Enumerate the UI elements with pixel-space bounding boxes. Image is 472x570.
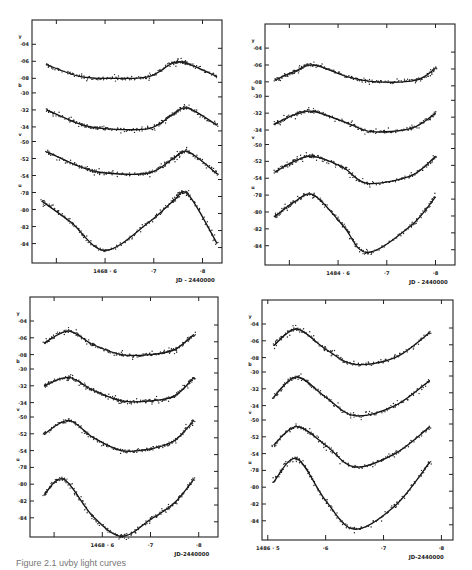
panel-bottom-left: 1468 · 6·7·8JD-2440000y·04·06·08b·30·32·… xyxy=(16,297,218,558)
x-tick-label: 1468 · 6 xyxy=(90,542,114,548)
x-tick-label: ·7 xyxy=(148,542,154,548)
y-tick-label: ·08 xyxy=(20,75,29,81)
y-tick-label: ·80 xyxy=(20,207,29,213)
y-tick-label: ·04 xyxy=(253,45,262,51)
band-label-u: u xyxy=(251,185,255,190)
x-tick-label: 1486 · 5 xyxy=(256,545,280,551)
y-tick-label: ·32 xyxy=(18,383,27,389)
band-label-y: y xyxy=(18,34,22,40)
y-tick-label: ·80 xyxy=(18,481,27,487)
y-tick-label: ·78 xyxy=(18,464,27,470)
y-tick-label: ·84 xyxy=(253,243,262,249)
y-tick-label: ·82 xyxy=(250,501,259,507)
y-tick-label: ·80 xyxy=(253,209,262,215)
panel-top-right: 1484 · 6·7·8JD - 2440000y·04·06·08b·30·3… xyxy=(251,24,455,286)
fit-curve-y xyxy=(274,329,430,365)
y-tick-label: ·06 xyxy=(253,62,262,68)
x-axis-label: JD - 2440000 xyxy=(408,279,448,286)
y-tick-label: ·84 xyxy=(18,515,27,521)
y-tick-label: ·04 xyxy=(20,41,29,47)
y-tick-label: ·30 xyxy=(20,90,29,96)
y-tick-label: ·06 xyxy=(20,58,29,64)
y-tick-label: ·30 xyxy=(253,93,262,99)
band-label-v: v xyxy=(18,132,22,137)
y-tick-label: ·54 xyxy=(250,451,259,457)
y-tick-label: ·78 xyxy=(250,467,259,473)
band-label-b: b xyxy=(251,86,255,91)
x-tick-label: ·8 xyxy=(200,268,206,274)
fit-curve-u xyxy=(274,458,430,529)
y-tick-label: ·78 xyxy=(20,190,29,196)
y-tick-label: ·30 xyxy=(250,369,259,375)
fit-curve-v xyxy=(275,156,436,183)
light-curve-figure: 1468 · 6·7·8JD - 2440000y·04·06·08b·30·3… xyxy=(0,0,472,570)
y-tick-label: ·30 xyxy=(18,366,27,372)
fit-curve-y xyxy=(45,331,194,355)
figure-caption: Figure 2.1 uvby light curves xyxy=(16,558,126,570)
x-tick-label: 1484 · 6 xyxy=(326,270,350,276)
fit-curve-v xyxy=(47,151,218,174)
band-label-u: u xyxy=(248,460,252,465)
x-tick-label: ·7 xyxy=(384,270,390,276)
x-tick-label: ·8 xyxy=(433,270,439,276)
band-label-b: b xyxy=(248,362,252,367)
y-tick-label: ·52 xyxy=(253,158,262,164)
y-tick-label: ·84 xyxy=(250,518,259,524)
band-label-u: u xyxy=(16,457,20,462)
y-tick-label: ·34 xyxy=(20,124,29,130)
y-tick-label: ·82 xyxy=(20,224,29,230)
y-tick-label: ·34 xyxy=(253,127,262,133)
y-tick-label: ·50 xyxy=(20,139,29,145)
fit-curve-u xyxy=(275,194,436,253)
band-label-v: v xyxy=(16,407,20,412)
fit-curve-v xyxy=(45,420,194,451)
y-tick-label: ·80 xyxy=(250,484,259,490)
band-label-v: v xyxy=(248,410,252,415)
band-label-v: v xyxy=(251,135,255,140)
y-tick-label: ·34 xyxy=(18,400,27,406)
y-tick-label: ·04 xyxy=(250,321,259,327)
x-tick-label: ·8 xyxy=(439,545,445,551)
y-tick-label: ·52 xyxy=(250,434,259,440)
y-tick-label: ·82 xyxy=(253,226,262,232)
band-label-y: y xyxy=(248,314,252,320)
fit-curve-b xyxy=(274,377,430,416)
y-tick-label: ·50 xyxy=(253,142,262,148)
y-tick-label: ·06 xyxy=(250,338,259,344)
y-tick-label: ·84 xyxy=(20,241,29,247)
x-tick-label: 1468 · 6 xyxy=(93,268,117,274)
y-tick-label: ·52 xyxy=(18,431,27,437)
x-axis-label: JD-2440000 xyxy=(173,551,209,558)
y-tick-label: ·54 xyxy=(18,448,27,454)
y-tick-label: ·32 xyxy=(250,386,259,392)
band-label-y: y xyxy=(16,311,20,317)
y-tick-label: ·32 xyxy=(20,107,29,113)
y-tick-label: ·04 xyxy=(18,318,27,324)
band-label-y: y xyxy=(251,38,255,44)
y-tick-label: ·34 xyxy=(250,403,259,409)
fit-curve-v xyxy=(274,427,430,467)
panel-bottom-right: 1486 · 5·6·7·8JD-2440000y·04·06·08b·30·3… xyxy=(248,300,453,561)
y-tick-label: ·50 xyxy=(18,414,27,420)
y-tick-label: ·08 xyxy=(250,355,259,361)
x-tick-label: ·8 xyxy=(196,542,202,548)
y-tick-label: ·82 xyxy=(18,498,27,504)
y-tick-label: ·54 xyxy=(20,173,29,179)
band-label-u: u xyxy=(18,183,22,188)
y-tick-label: ·08 xyxy=(18,352,27,358)
y-tick-label: ·78 xyxy=(253,192,262,198)
band-label-b: b xyxy=(16,359,20,364)
x-tick-label: ·7 xyxy=(381,545,387,551)
fit-curve-u xyxy=(45,479,194,537)
y-tick-label: ·08 xyxy=(253,79,262,85)
y-tick-label: ·06 xyxy=(18,335,27,341)
panel-top-left: 1468 · 6·7·8JD - 2440000y·04·06·08b·30·3… xyxy=(18,20,222,284)
y-tick-label: ·50 xyxy=(250,417,259,423)
x-axis-label: JD-2440000 xyxy=(408,554,444,561)
y-tick-label: ·32 xyxy=(253,110,262,116)
y-tick-label: ·54 xyxy=(253,175,262,181)
x-tick-label: ·6 xyxy=(323,545,329,551)
x-tick-label: ·7 xyxy=(151,268,157,274)
y-tick-label: ·52 xyxy=(20,156,29,162)
band-label-b: b xyxy=(18,83,22,88)
